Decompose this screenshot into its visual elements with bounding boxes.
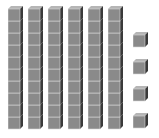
tens-rod (28, 6, 45, 131)
ones-cube (133, 59, 148, 74)
tens-rod (88, 6, 105, 131)
ones-cube (133, 86, 148, 101)
ones-cube (133, 113, 148, 128)
tens-rod (108, 6, 125, 131)
ones-cube (133, 32, 148, 47)
tens-rod (8, 6, 25, 131)
tens-rod (68, 6, 85, 131)
tens-rod (48, 6, 65, 131)
